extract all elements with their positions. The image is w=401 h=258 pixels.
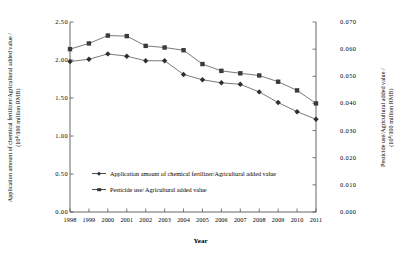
chart-figure: Application amount of chemical fertilize…	[0, 0, 401, 258]
legend-marker-diamond-icon	[92, 173, 106, 174]
plot-canvas	[0, 0, 401, 258]
legend-label-fertilizer: Application amount of chemical fertilize…	[110, 170, 276, 177]
series-fertilizer	[67, 51, 318, 122]
series-pesticide	[68, 33, 318, 105]
legend-marker-square-icon	[92, 189, 106, 190]
legend-item-pesticide[interactable]: Pesticide use/ Agricultural added value	[92, 186, 207, 193]
legend-item-fertilizer[interactable]: Application amount of chemical fertilize…	[92, 170, 276, 177]
legend-label-pesticide: Pesticide use/ Agricultural added value	[110, 186, 207, 193]
